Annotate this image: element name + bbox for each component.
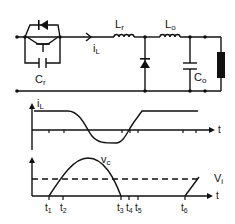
tick-t4: t4 bbox=[126, 202, 133, 214]
antiparallel-diode-icon bbox=[40, 20, 48, 30]
resonant-inductor-coil bbox=[114, 35, 134, 38]
label-lr: Lr bbox=[115, 18, 124, 32]
output-inductor-coil bbox=[160, 35, 180, 38]
label-lo: Lo bbox=[165, 18, 176, 32]
tick-t5: t5 bbox=[135, 202, 142, 214]
label-t-axis-1: t bbox=[218, 124, 221, 135]
label-co: Co bbox=[194, 71, 207, 85]
tick-t1: t1 bbox=[45, 202, 52, 214]
freewheel-diode-icon bbox=[140, 60, 150, 68]
circuit-schematic bbox=[17, 25, 221, 91]
label-vi: Vi bbox=[214, 172, 223, 186]
current-waveform bbox=[32, 106, 212, 150]
tick-t2: t2 bbox=[60, 202, 67, 214]
label-t-axis-2: t bbox=[216, 190, 219, 201]
load-resistor-icon bbox=[217, 52, 225, 78]
voltage-waveform bbox=[32, 158, 210, 200]
label-vc: vc bbox=[101, 153, 111, 167]
diagram-canvas: Cr iL Lr Lo Co iL t vc Vi t t1 t2 t3 t4 … bbox=[0, 0, 235, 224]
tick-t6: t6 bbox=[181, 202, 188, 214]
label-il: iL bbox=[93, 42, 100, 56]
label-cr: Cr bbox=[35, 73, 46, 87]
tick-t3: t3 bbox=[117, 202, 124, 214]
label-il-axis: iL bbox=[37, 97, 44, 111]
